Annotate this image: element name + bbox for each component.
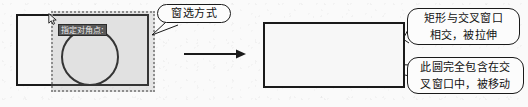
callout-circle-move-line-1: 此圆完全包含在交	[408, 59, 523, 76]
figure-canvas: 指定对角点: 窗选方式 矩形与交叉窗口 相交，被拉伸	[0, 0, 528, 107]
callout-window-mode-line-1: 窗选方式	[158, 5, 230, 23]
callout-circle-move-line-2: 叉窗口中，被移动	[408, 76, 523, 93]
callout-leader-window-mode	[152, 22, 178, 35]
callout-rect-stretch-line-1: 矩形与交叉窗口	[408, 10, 519, 27]
callout-rect-stretch-line-2: 相交，被拉伸	[408, 27, 519, 44]
right-rectangle-shape	[263, 22, 405, 88]
callout-window-selection-mode: 窗选方式	[157, 4, 231, 23]
callout-rectangle-stretched: 矩形与交叉窗口 相交，被拉伸	[407, 8, 520, 45]
right-arrow-icon	[184, 50, 246, 59]
callout-circle-moved: 此圆完全包含在交 叉窗口中，被移动	[407, 57, 524, 94]
